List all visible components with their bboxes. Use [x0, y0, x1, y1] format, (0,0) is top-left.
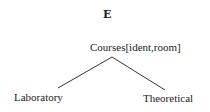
child-node-theoretical: Theoretical	[143, 93, 193, 104]
edge-courses-laboratory	[58, 57, 112, 88]
edge-courses-theoretical	[112, 57, 165, 90]
child-node-laboratory: Laboratory	[14, 92, 63, 103]
